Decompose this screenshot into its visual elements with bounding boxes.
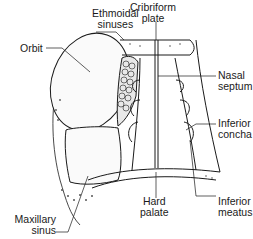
cribriform-plate-label: Cribriform plate <box>130 2 176 24</box>
nasal-cavity-illustration <box>0 0 253 239</box>
anatomy-diagram: Ethmoidal sinuses Cribriform plate Orbit… <box>0 0 253 239</box>
hard-palate-label: Hard palate <box>140 196 169 218</box>
maxillary-sinus-label: Maxillary sinus <box>0 214 56 236</box>
inferior-meatus-label: Inferior meatus <box>218 196 252 218</box>
nasal-septum-label: Nasal septum <box>218 70 252 92</box>
orbit-label: Orbit <box>20 43 43 54</box>
inferior-concha-label: Inferior concha <box>218 118 252 140</box>
